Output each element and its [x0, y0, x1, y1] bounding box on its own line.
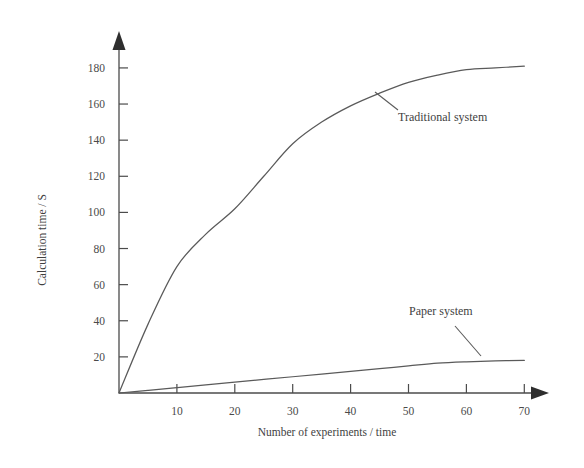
- x-tick-label: 20: [229, 405, 241, 417]
- y-tick-label: 140: [88, 134, 106, 146]
- x-tick-label: 10: [171, 405, 183, 417]
- y-tick-label: 100: [88, 206, 106, 218]
- x-tick-label: 60: [461, 405, 473, 417]
- annotation-label: Paper system: [409, 304, 473, 318]
- y-tick-label: 40: [94, 315, 106, 327]
- y-tick-label: 60: [94, 279, 106, 291]
- y-tick-label: 80: [94, 243, 106, 255]
- x-tick-label: 40: [345, 405, 357, 417]
- annotation-label: Traditional system: [398, 110, 488, 124]
- y-tick-label: 160: [88, 98, 106, 110]
- x-tick-label: 70: [519, 405, 531, 417]
- chart-container: 20406080100120140160180 10203040506070 T…: [0, 0, 584, 468]
- x-tick-label: 30: [287, 405, 299, 417]
- x-tick-label: 50: [403, 405, 415, 417]
- y-tick-label: 180: [88, 62, 106, 74]
- y-tick-label: 120: [88, 170, 106, 182]
- x-axis-title: Number of experiments / time: [258, 426, 397, 439]
- line-chart: 20406080100120140160180 10203040506070 T…: [0, 0, 584, 468]
- y-axis-title: Calculation time / S: [36, 194, 48, 286]
- y-tick-label: 20: [94, 351, 106, 363]
